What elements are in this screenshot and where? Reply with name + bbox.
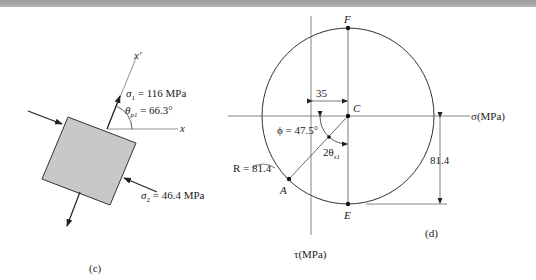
dim-35-label: 35: [316, 87, 328, 99]
caption-c: (c): [89, 262, 102, 275]
phi-arc: [320, 116, 329, 137]
caption-d: (d): [425, 227, 438, 240]
diagram-canvas: x' x σ1 = 116 MPa θp1 = 66.3° σ2 = 46.4 …: [0, 0, 536, 280]
label-A: A: [279, 184, 287, 196]
theta-label: θp1 = 66.3°: [125, 104, 173, 119]
stress-element-square: [42, 117, 136, 205]
sigma1-arrow-bottom: [67, 192, 80, 226]
sigma2-arrow-left: [28, 111, 62, 124]
label-E: E: [343, 209, 351, 221]
two-theta-label: 2θs1: [323, 146, 340, 161]
tau-axis-label: τ(MPa): [294, 248, 327, 261]
point-A: [287, 177, 291, 181]
figure-d-mohrs-circle: F C A E 35 σ(MPa) τ(MPa) 81.4 R = 81.4 ϕ…: [228, 13, 505, 261]
x-prime-label: x': [133, 49, 142, 61]
sigma-axis-label: σ(MPa): [471, 110, 505, 123]
arc-junction-dot: [327, 135, 331, 139]
x-label: x: [179, 122, 185, 134]
sigma1-arrow: [107, 96, 120, 129]
point-E: [346, 202, 350, 206]
label-C: C: [353, 102, 361, 114]
point-C: [346, 114, 350, 118]
sigma1-label: σ1 = 116 MPa: [126, 87, 186, 102]
dim-81-label: 81.4: [430, 154, 450, 166]
phi-label: ϕ = 47.5°: [277, 124, 318, 136]
label-F: F: [343, 13, 351, 25]
radius-label: R = 81.4: [233, 162, 272, 174]
sigma2-label: σ2 = 46.4 MPa: [141, 189, 205, 204]
point-F: [346, 26, 350, 30]
figure-c-stress-element: x' x σ1 = 116 MPa θp1 = 66.3° σ2 = 46.4 …: [28, 49, 205, 275]
two-theta-arc: [329, 137, 347, 144]
